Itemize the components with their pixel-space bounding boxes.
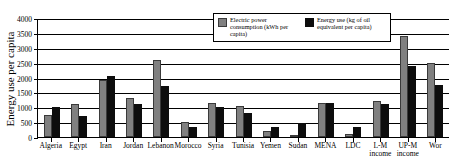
x-tick-label: Morocco: [174, 142, 201, 159]
x-tick-label: Yemen: [257, 142, 284, 159]
energy-use-bar-chart: Energy use per capita 400035003000250020…: [0, 0, 449, 167]
bar-energy-use: [408, 66, 416, 137]
bar-electric-power: [181, 122, 189, 137]
bar-electric-power: [345, 134, 353, 137]
legend-entry-electric-power: Electric power consumption (kWh per capi…: [218, 17, 299, 38]
y-tick-label: 500: [21, 119, 32, 128]
y-axis-title: Energy use per capita: [4, 13, 16, 145]
x-tick-label: Egypt: [64, 142, 91, 159]
x-tick-label: MENA: [312, 142, 339, 159]
bar-energy-use: [381, 104, 389, 137]
legend-label: Energy use (kg of oil equivalent per cap…: [317, 17, 386, 31]
legend-entry-energy-use: Energy use (kg of oil equivalent per cap…: [305, 17, 386, 38]
x-axis-labels: AlgeriaEgyptIranJordanLebanonMoroccoSyri…: [37, 142, 449, 159]
bar-electric-power: [318, 103, 326, 137]
bar-electric-power: [373, 101, 381, 137]
bar-electric-power: [126, 98, 134, 137]
y-tick-label: 3000: [17, 44, 32, 53]
bar-energy-use: [134, 104, 142, 137]
bar-group: [394, 19, 421, 137]
bar-electric-power: [44, 115, 52, 137]
bar-energy-use: [271, 127, 279, 137]
bar-energy-use: [244, 113, 252, 137]
x-tick-label: L-M income: [367, 142, 394, 159]
bar-electric-power: [236, 106, 244, 137]
bar-energy-use: [79, 116, 87, 137]
bar-electric-power: [99, 80, 107, 137]
x-tick-label: Syria: [202, 142, 229, 159]
bar-electric-power: [290, 135, 298, 137]
y-tick-label: 2000: [17, 74, 32, 83]
bar-energy-use: [189, 127, 197, 137]
bar-group: [422, 19, 449, 137]
bar-group: [120, 19, 147, 137]
legend-swatch-icon: [305, 18, 314, 27]
bar-energy-use: [435, 85, 443, 137]
bar-energy-use: [107, 76, 115, 137]
y-tick-label: 1000: [17, 104, 32, 113]
bar-energy-use: [52, 107, 60, 137]
bar-electric-power: [208, 103, 216, 137]
bar-group: [175, 19, 202, 137]
x-tick-label: Wor: [422, 142, 449, 159]
bar-energy-use: [216, 107, 224, 137]
y-tick-label: 3500: [17, 29, 32, 38]
bar-group: [93, 19, 120, 137]
y-tick-label: 2500: [17, 59, 32, 68]
legend-label: Electric power consumption (kWh per capi…: [230, 17, 299, 38]
x-tick-label: Lebanon: [147, 142, 174, 159]
x-tick-label: Tunisia: [229, 142, 256, 159]
y-tick-label: 4000: [17, 15, 32, 24]
x-tick-label: Sudan: [284, 142, 311, 159]
bar-group: [65, 19, 92, 137]
bar-electric-power: [71, 104, 79, 137]
bar-electric-power: [263, 131, 271, 137]
bar-electric-power: [153, 60, 161, 137]
bar-energy-use: [298, 123, 306, 137]
x-tick-label: Iran: [92, 142, 119, 159]
legend-swatch-icon: [218, 18, 227, 27]
bar-energy-use: [161, 86, 169, 137]
x-tick-label: Jordan: [119, 142, 146, 159]
bar-electric-power: [427, 63, 435, 137]
chart-legend: Electric power consumption (kWh per capi…: [213, 13, 391, 42]
x-tick-label: Algeria: [37, 142, 64, 159]
y-tick-label: 0: [28, 134, 32, 143]
bar-energy-use: [353, 127, 361, 137]
bar-group: [148, 19, 175, 137]
bar-group: [38, 19, 65, 137]
x-tick-label: LDC: [339, 142, 366, 159]
y-tick-label: 1500: [17, 89, 32, 98]
bar-electric-power: [400, 36, 408, 137]
x-tick-label: UP-M income: [394, 142, 421, 159]
bar-energy-use: [326, 103, 334, 137]
